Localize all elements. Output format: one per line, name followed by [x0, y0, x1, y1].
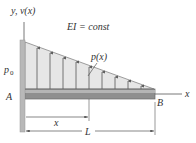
fixed-wall — [20, 40, 25, 132]
load-function-label: p(x) — [90, 51, 108, 63]
fixed-end-label: A — [5, 91, 13, 102]
load-max-label: p — [3, 64, 9, 75]
cantilever-beam-diagram: y, v(x) EI = const p(x) p 0 A x B x L — [0, 0, 196, 143]
stiffness-label: EI = const — [66, 21, 110, 32]
beam-highlight — [25, 90, 155, 93]
x-axis-label: x — [184, 88, 190, 99]
x-dimension-label: x — [53, 117, 59, 128]
y-axis-label: y, v(x) — [10, 5, 36, 17]
free-end-label: B — [157, 97, 163, 108]
load-max-subscript: 0 — [10, 69, 14, 77]
distributed-load-area — [25, 42, 154, 89]
length-dimension-label: L — [84, 126, 91, 137]
